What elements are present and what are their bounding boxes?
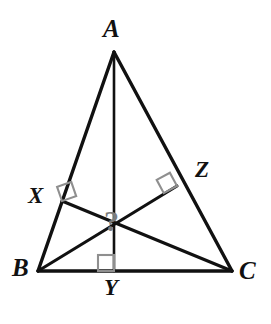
- side-ab-line: [38, 52, 114, 271]
- side-ac-line: [114, 52, 232, 271]
- unknown-point-question-mark: ?: [104, 206, 119, 236]
- triangle-diagram-canvas: [0, 0, 271, 324]
- right-angle-at-y-icon: [98, 255, 114, 271]
- vertex-label-b: B: [12, 255, 29, 280]
- cevian-c-to-x-line: [62, 201, 232, 271]
- vertex-label-c: C: [239, 258, 256, 283]
- geometry-figure: A B C X Y Z ?: [0, 0, 271, 324]
- vertex-label-a: A: [103, 16, 120, 41]
- foot-label-x: X: [28, 184, 43, 207]
- foot-label-z: Z: [195, 158, 209, 181]
- foot-label-y: Y: [104, 276, 118, 299]
- right-angle-at-z-icon: [157, 173, 177, 193]
